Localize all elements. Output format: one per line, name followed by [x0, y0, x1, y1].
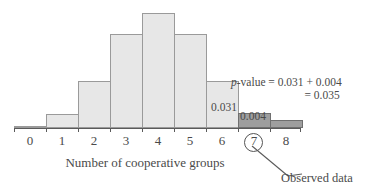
- x-axis-line: [14, 128, 300, 129]
- tick-label-1: 1: [51, 133, 73, 149]
- tick-mark-5: [174, 128, 175, 132]
- p-value-line-1: -value = 0.031 + 0.004: [237, 76, 342, 88]
- tick-label-4: 4: [147, 133, 169, 149]
- tick-label-2: 2: [83, 133, 105, 149]
- tick-mark-4: [142, 128, 143, 132]
- bar-5: [174, 34, 207, 128]
- bar-8: [270, 120, 303, 128]
- tick-mark-8: [270, 128, 271, 132]
- tick-mark-0: [14, 128, 15, 132]
- bar-value-7: 0.031: [211, 101, 237, 114]
- tick-label-5: 5: [179, 133, 201, 149]
- tick-label-0: 0: [19, 133, 41, 149]
- observed-data-label: Observed data: [281, 170, 353, 186]
- p-value-line-2: = 0.035: [231, 89, 342, 102]
- bar-1: [46, 114, 79, 128]
- bar-2: [78, 81, 111, 128]
- tick-mark-6: [206, 128, 207, 132]
- tick-mark-9: [300, 128, 301, 132]
- tick-mark-2: [78, 128, 79, 132]
- bar-value-8: 0.004: [240, 110, 266, 123]
- tick-label-3: 3: [115, 133, 137, 149]
- tick-mark-3: [110, 128, 111, 132]
- histogram-figure: 0.031 0.004 p-value = 0.031 + 0.004 = 0.…: [0, 0, 372, 194]
- bar-3: [110, 34, 143, 128]
- tick-mark-1: [46, 128, 47, 132]
- p-value-annotation: p-value = 0.031 + 0.004 = 0.035: [231, 76, 342, 102]
- bar-4: [142, 13, 175, 128]
- tick-mark-7: [238, 128, 239, 132]
